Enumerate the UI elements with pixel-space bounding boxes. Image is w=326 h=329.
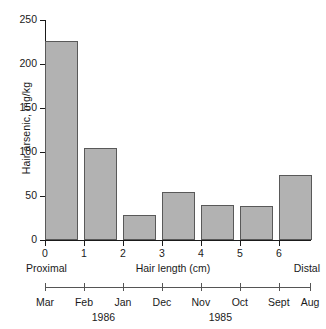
x-tick xyxy=(162,241,163,246)
plot-area: 050100150200250 0123456 xyxy=(45,20,310,240)
month-label: Nov xyxy=(181,296,221,308)
y-tick-label: 50 xyxy=(25,189,37,201)
x-tick xyxy=(84,241,85,246)
bar xyxy=(84,148,117,240)
x-tick-label: 5 xyxy=(228,247,252,259)
x-tick-label: 0 xyxy=(33,247,57,259)
y-tick-label: 0 xyxy=(31,233,37,245)
x-tick-label: 2 xyxy=(111,247,135,259)
bar xyxy=(162,192,195,240)
arsenic-hair-bar-chart: Hair arsenic, mg/kg 050100150200250 0123… xyxy=(0,0,326,329)
month-tick xyxy=(123,283,124,291)
month-tick xyxy=(84,283,85,291)
bar xyxy=(45,41,78,240)
x-tick xyxy=(279,241,280,246)
x-tick xyxy=(45,241,46,246)
x-tick-label: 6 xyxy=(267,247,291,259)
x-tick-label: 1 xyxy=(72,247,96,259)
bar xyxy=(201,205,234,240)
x-tick-label: 3 xyxy=(150,247,174,259)
x-tick xyxy=(240,241,241,246)
month-label: Oct xyxy=(220,296,260,308)
month-label: Jan xyxy=(103,296,143,308)
month-label: Dec xyxy=(142,296,182,308)
x-tick xyxy=(123,241,124,246)
bar xyxy=(123,215,156,240)
month-label: Mar xyxy=(25,296,65,308)
y-tick: 250 xyxy=(40,20,45,21)
bar xyxy=(279,175,312,240)
x-tick xyxy=(201,241,202,246)
y-tick-label: 150 xyxy=(19,101,37,113)
y-tick-label: 250 xyxy=(19,13,37,25)
y-axis-title: Hair arsenic, mg/kg xyxy=(20,48,32,208)
month-tick xyxy=(162,283,163,291)
month-tick xyxy=(45,283,46,291)
distal-label: Distal xyxy=(294,262,320,274)
month-scale-axis: MarFebJanDecNovOctSeptAug 19861985 xyxy=(45,287,310,288)
year-label: 1985 xyxy=(195,311,245,323)
x-axis-title: Hair length (cm) xyxy=(0,262,326,274)
bar xyxy=(240,206,273,240)
month-tick xyxy=(240,283,241,291)
y-tick-label: 100 xyxy=(19,145,37,157)
y-tick-label: 200 xyxy=(19,57,37,69)
month-tick xyxy=(201,283,202,291)
month-label: Aug xyxy=(290,296,326,308)
x-tick-label: 4 xyxy=(189,247,213,259)
month-label: Feb xyxy=(64,296,104,308)
year-label: 1986 xyxy=(78,311,128,323)
month-tick xyxy=(310,283,311,291)
month-tick xyxy=(279,283,280,291)
